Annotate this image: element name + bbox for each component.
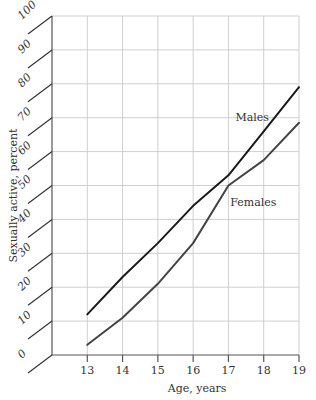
y-tick-label: 80 (15, 71, 34, 90)
x-axis-title: Age, years (167, 382, 227, 395)
y-tick-label: 70 (15, 105, 34, 124)
y-tick-mark (28, 219, 52, 237)
y-tick-mark (28, 355, 52, 373)
y-tick-label: 90 (15, 37, 34, 56)
y-tick-mark (28, 287, 52, 305)
x-ticks: 13141516171819 (80, 355, 306, 377)
line-chart: 0102030405060708090100 13141516171819 Ma… (0, 0, 316, 400)
y-tick-mark (28, 118, 52, 136)
y-tick-mark (28, 50, 52, 68)
y-axis-title: Sexually active, percent (7, 128, 20, 263)
x-tick-label: 13 (80, 364, 94, 377)
series-label-males: Males (235, 111, 269, 124)
y-tick-label: 10 (15, 308, 34, 327)
y-tick-label: 100 (15, 0, 39, 22)
y-tick-mark (28, 253, 52, 271)
y-tick-mark (28, 84, 52, 102)
x-tick-label: 16 (186, 364, 200, 377)
y-tick-mark (28, 186, 52, 204)
y-tick-mark (28, 16, 52, 34)
series-label-females: Females (230, 196, 277, 209)
y-tick-mark (28, 152, 52, 170)
x-tick-label: 17 (221, 364, 235, 377)
x-tick-label: 19 (292, 364, 306, 377)
y-tick-label: 20 (14, 274, 34, 294)
y-tick-mark (28, 321, 52, 339)
x-tick-label: 18 (257, 364, 271, 377)
y-tick-label: 0 (15, 347, 29, 361)
x-tick-label: 15 (151, 364, 165, 377)
grid (52, 16, 299, 355)
x-tick-label: 14 (116, 364, 130, 377)
